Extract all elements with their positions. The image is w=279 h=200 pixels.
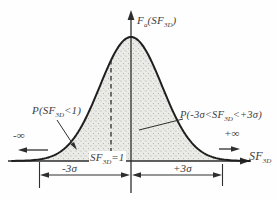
figure-canvas: Fa(SF3D) P(SF3D<1) P(-3σ<SF3D<+3σ) -∞ +∞… bbox=[0, 0, 279, 200]
pos-infinity-arrow-icon bbox=[231, 146, 240, 152]
dim-right-label: +3σ bbox=[173, 162, 192, 174]
probability-left-label: P(SF3D<1) bbox=[32, 104, 81, 116]
mean-marker-label: SF3D=1 bbox=[89, 151, 126, 163]
y-axis-arrow-icon bbox=[128, 10, 135, 20]
x-axis-label: SF3D bbox=[249, 150, 271, 163]
dim-left-label: -3σ bbox=[62, 162, 77, 174]
prob-left-leader bbox=[57, 120, 74, 146]
neg-infinity-arrow-icon bbox=[18, 147, 27, 153]
dim-right-arrow-in-icon bbox=[132, 172, 141, 177]
dim-right-arrow-out-icon bbox=[213, 172, 222, 177]
dim-left-arrow-out-icon bbox=[40, 172, 49, 177]
neg-infinity-label: -∞ bbox=[13, 129, 25, 141]
dim-left-arrow-in-icon bbox=[121, 172, 130, 177]
probability-right-label: P(-3σ<SF3D<+3σ) bbox=[180, 109, 262, 121]
diagram-svg bbox=[0, 0, 279, 200]
pos-infinity-label: +∞ bbox=[224, 127, 240, 139]
y-axis-label: Fa(SF3D) bbox=[137, 14, 176, 26]
